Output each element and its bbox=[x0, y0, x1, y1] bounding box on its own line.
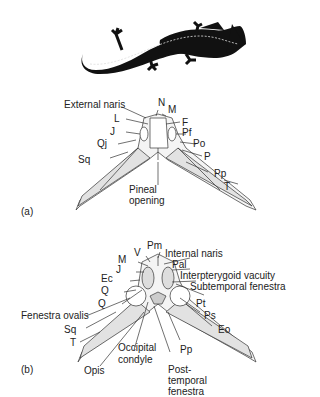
label-qj-quadratojugal: Qj bbox=[97, 138, 107, 149]
label-opis-opisthotic: Opis bbox=[84, 365, 105, 376]
label-pp-postparietal-b: Pp bbox=[180, 344, 192, 355]
label-subtemporal-fenestra: Subtemporal fenestra bbox=[190, 281, 286, 292]
panel-a-tag: (a) bbox=[21, 206, 33, 217]
label-t-tabular-b: T bbox=[70, 337, 76, 348]
label-j-jugal: J bbox=[110, 126, 115, 137]
salamander-silhouette-icon bbox=[82, 22, 246, 74]
label-interpterygoid-vacuity: Interpterygoid vacuity bbox=[180, 270, 275, 281]
label-pal-palatine: Pal bbox=[172, 259, 186, 270]
label-sq-squamosal: Sq bbox=[78, 154, 90, 165]
label-external-naris: External naris bbox=[64, 99, 125, 110]
label-pineal-line2: opening bbox=[129, 195, 165, 206]
label-j-jugal-b: J bbox=[116, 264, 121, 275]
label-post-temporal-line2: temporal bbox=[168, 375, 207, 386]
label-v-vomer: V bbox=[134, 247, 141, 258]
label-pineal-line1: Pineal bbox=[129, 184, 157, 195]
label-t-tabular: T bbox=[224, 181, 230, 192]
label-sq-squamosal-b: Sq bbox=[64, 324, 76, 335]
label-q-quadrate-2: Q bbox=[98, 298, 106, 309]
label-ps-parasphenoid: Ps bbox=[204, 310, 216, 321]
label-eo-exoccipital: Eo bbox=[218, 324, 230, 335]
skull-dorsal-view bbox=[76, 107, 256, 210]
label-n-nasal: N bbox=[158, 97, 165, 108]
label-post-temporal-line3: fenestra bbox=[168, 386, 204, 397]
label-m-maxilla: M bbox=[168, 104, 176, 115]
label-pm-premaxilla: Pm bbox=[147, 240, 162, 251]
label-p-parietal: P bbox=[204, 151, 211, 162]
label-pp-postparietal: Pp bbox=[214, 168, 226, 179]
label-po-postorbital: Po bbox=[193, 138, 205, 149]
label-post-temporal-line1: Post- bbox=[168, 364, 191, 375]
label-q-quadrate-1: Q bbox=[101, 285, 109, 296]
label-occipital-line1: Occipital bbox=[118, 342, 156, 353]
label-fenestra-ovalis: Fenestra ovalis bbox=[21, 310, 89, 321]
label-ec-ectopterygoid: Ec bbox=[101, 273, 113, 284]
label-pt-pterygoid: Pt bbox=[196, 298, 205, 309]
label-l-lacrimal: L bbox=[114, 113, 120, 124]
label-internal-naris: Internal naris bbox=[165, 248, 223, 259]
label-occipital-line2: condyle bbox=[118, 354, 152, 365]
label-pf-postfrontal: Pf bbox=[182, 127, 191, 138]
panel-b-tag: (b) bbox=[21, 364, 33, 375]
